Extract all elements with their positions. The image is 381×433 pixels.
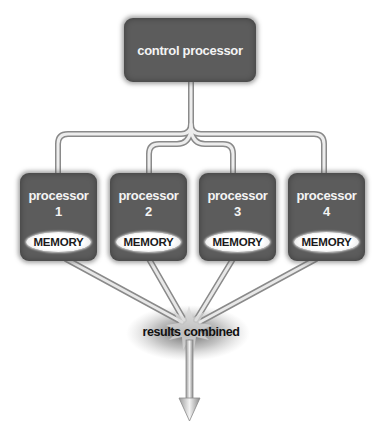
processor-label: processor (288, 187, 365, 204)
processor-box-2: processor 2 MEMORY (110, 173, 187, 261)
processor-label: processor (199, 187, 276, 204)
processor-label: processor (20, 187, 97, 204)
results-combined-label: results combined (126, 325, 256, 339)
control-processor-box: control processor (124, 18, 256, 82)
control-processor-label: control processor (137, 43, 242, 58)
processor-number: 3 (199, 204, 276, 220)
memory-badge: MEMORY (294, 232, 359, 252)
memory-badge: MEMORY (205, 232, 270, 252)
processor-number: 1 (20, 204, 97, 220)
processor-label: processor (110, 187, 187, 204)
distribution-pipes (58, 82, 324, 175)
processor-box-3: processor 3 MEMORY (199, 173, 276, 261)
processor-number: 4 (288, 204, 365, 220)
processor-box-4: processor 4 MEMORY (288, 173, 365, 261)
processor-box-1: processor 1 MEMORY (20, 173, 97, 261)
memory-badge: MEMORY (116, 232, 181, 252)
memory-badge: MEMORY (26, 232, 91, 252)
processor-number: 2 (110, 204, 187, 220)
